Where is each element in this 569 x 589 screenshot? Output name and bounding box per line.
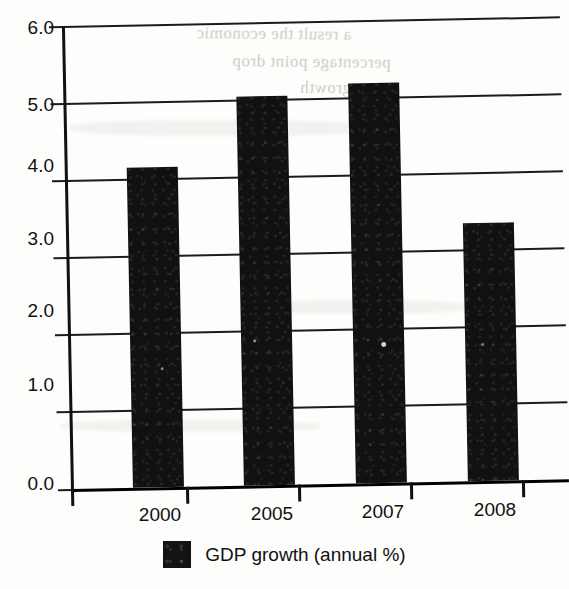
bar-2007 <box>348 83 407 484</box>
xtick-mark-4 <box>522 480 525 497</box>
xtick-label-2000: 2000 <box>117 504 203 526</box>
gridline-5-0 <box>64 93 561 105</box>
plot-area <box>0 0 569 511</box>
ytick-label-2-0: 2.0 <box>2 300 54 322</box>
xtick-label-2005: 2005 <box>229 503 315 525</box>
ytick-label-5-0: 5.0 <box>2 94 54 116</box>
scan-speck <box>481 343 484 346</box>
xtick-mark-0 <box>71 489 74 506</box>
ytick-label-4-0: 4.0 <box>2 155 54 177</box>
ytick-label-3-0: 3.0 <box>2 228 54 250</box>
scan-speck <box>161 367 164 370</box>
xtick-label-2008: 2008 <box>452 499 538 521</box>
ytick-label-6-0: 6.0 <box>2 17 54 39</box>
bar-2008 <box>463 222 519 481</box>
chart-legend: GDP growth (annual %) <box>0 541 569 568</box>
xtick-mark-1 <box>186 487 189 504</box>
ytick-label-0-0: 0.0 <box>2 473 54 495</box>
xtick-label-2007: 2007 <box>340 501 426 523</box>
gridline-6-0 <box>63 16 560 28</box>
legend-color-swatch <box>163 541 191 568</box>
scan-speck <box>380 341 387 348</box>
y-axis-line <box>62 26 74 494</box>
xtick-mark-2 <box>298 485 301 502</box>
scan-speck <box>253 339 256 342</box>
xtick-mark-3 <box>410 482 413 499</box>
legend-label-gdp-growth: GDP growth (annual %) <box>205 544 405 566</box>
bar-2000 <box>127 167 184 488</box>
bar-2005 <box>236 96 295 486</box>
gdp-growth-bar-chart: 6.0 5.0 4.0 3.0 2.0 1.0 0.0 2000 2005 20… <box>0 0 569 589</box>
ytick-label-1-0: 1.0 <box>2 374 54 396</box>
